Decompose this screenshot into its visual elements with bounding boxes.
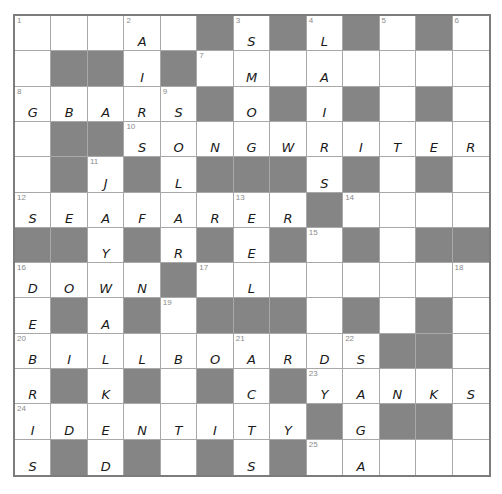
crossword-cell[interactable]	[88, 16, 124, 51]
crossword-cell[interactable]: I	[197, 404, 233, 439]
crossword-cell[interactable]: I	[307, 87, 343, 122]
crossword-cell[interactable]: W	[270, 122, 306, 157]
crossword-cell[interactable]: A	[88, 193, 124, 228]
crossword-cell[interactable]: R	[307, 122, 343, 157]
crossword-cell[interactable]	[453, 404, 489, 439]
crossword-cell[interactable]: 17	[197, 263, 233, 298]
crossword-cell[interactable]	[51, 16, 87, 51]
crossword-cell[interactable]: N	[380, 369, 416, 404]
crossword-cell[interactable]: A	[343, 369, 379, 404]
crossword-cell[interactable]	[453, 193, 489, 228]
crossword-cell[interactable]	[380, 157, 416, 192]
crossword-cell[interactable]: G	[234, 122, 270, 157]
crossword-cell[interactable]: 14	[343, 193, 379, 228]
crossword-cell[interactable]: Y	[88, 228, 124, 263]
crossword-cell[interactable]: E	[234, 228, 270, 263]
crossword-cell[interactable]	[161, 440, 197, 475]
crossword-cell[interactable]: T	[380, 122, 416, 157]
crossword-cell[interactable]	[453, 298, 489, 333]
crossword-cell[interactable]: D	[88, 440, 124, 475]
crossword-cell[interactable]: L	[124, 334, 160, 369]
crossword-cell[interactable]: E	[51, 193, 87, 228]
crossword-cell[interactable]: F	[124, 193, 160, 228]
crossword-cell[interactable]	[416, 440, 452, 475]
crossword-cell[interactable]: 22S	[343, 334, 379, 369]
crossword-cell[interactable]	[343, 51, 379, 86]
crossword-cell[interactable]: R	[270, 193, 306, 228]
crossword-cell[interactable]: E	[88, 404, 124, 439]
crossword-cell[interactable]: L	[88, 334, 124, 369]
crossword-cell[interactable]: B	[51, 87, 87, 122]
crossword-cell[interactable]: I	[343, 122, 379, 157]
crossword-cell[interactable]: S	[15, 440, 51, 475]
crossword-cell[interactable]	[380, 263, 416, 298]
crossword-cell[interactable]: R	[197, 193, 233, 228]
crossword-cell[interactable]: R	[161, 228, 197, 263]
crossword-cell[interactable]: O	[161, 122, 197, 157]
crossword-cell[interactable]: N	[197, 122, 233, 157]
crossword-cell[interactable]	[416, 51, 452, 86]
crossword-cell[interactable]	[380, 51, 416, 86]
crossword-cell[interactable]	[15, 51, 51, 86]
crossword-cell[interactable]: 19	[161, 298, 197, 333]
crossword-cell[interactable]: R	[124, 87, 160, 122]
crossword-cell[interactable]: O	[234, 87, 270, 122]
crossword-cell[interactable]: 18	[453, 263, 489, 298]
crossword-cell[interactable]: B	[161, 334, 197, 369]
crossword-cell[interactable]: 16D	[15, 263, 51, 298]
crossword-cell[interactable]	[380, 298, 416, 333]
crossword-cell[interactable]	[161, 16, 197, 51]
crossword-cell[interactable]: L	[161, 157, 197, 192]
crossword-cell[interactable]: 7	[197, 51, 233, 86]
crossword-cell[interactable]: A	[88, 87, 124, 122]
crossword-cell[interactable]: 5	[380, 16, 416, 51]
crossword-cell[interactable]	[270, 263, 306, 298]
crossword-cell[interactable]: S	[453, 369, 489, 404]
crossword-cell[interactable]: M	[234, 51, 270, 86]
crossword-cell[interactable]: 24I	[15, 404, 51, 439]
crossword-cell[interactable]: N	[124, 404, 160, 439]
crossword-cell[interactable]: N	[124, 263, 160, 298]
crossword-cell[interactable]	[270, 51, 306, 86]
crossword-cell[interactable]: O	[197, 334, 233, 369]
crossword-cell[interactable]	[380, 228, 416, 263]
crossword-cell[interactable]	[307, 263, 343, 298]
crossword-cell[interactable]: T	[234, 404, 270, 439]
crossword-cell[interactable]: 13E	[234, 193, 270, 228]
crossword-cell[interactable]: 25	[307, 440, 343, 475]
crossword-cell[interactable]: 12S	[15, 193, 51, 228]
crossword-cell[interactable]: K	[88, 369, 124, 404]
crossword-cell[interactable]: Y	[270, 404, 306, 439]
crossword-cell[interactable]: 9S	[161, 87, 197, 122]
crossword-cell[interactable]: C	[234, 369, 270, 404]
crossword-cell[interactable]: R	[270, 334, 306, 369]
crossword-cell[interactable]: 8G	[15, 87, 51, 122]
crossword-cell[interactable]: 3S	[234, 16, 270, 51]
crossword-cell[interactable]: 23Y	[307, 369, 343, 404]
crossword-cell[interactable]: 21A	[234, 334, 270, 369]
crossword-cell[interactable]: 4L	[307, 16, 343, 51]
crossword-cell[interactable]: I	[124, 51, 160, 86]
crossword-cell[interactable]: D	[51, 404, 87, 439]
crossword-cell[interactable]: R	[15, 369, 51, 404]
crossword-cell[interactable]	[380, 87, 416, 122]
crossword-cell[interactable]	[416, 263, 452, 298]
crossword-cell[interactable]: W	[88, 263, 124, 298]
crossword-cell[interactable]	[453, 87, 489, 122]
crossword-cell[interactable]: 15	[307, 228, 343, 263]
crossword-cell[interactable]: A	[88, 298, 124, 333]
crossword-cell[interactable]: L	[234, 263, 270, 298]
crossword-cell[interactable]: 11J	[88, 157, 124, 192]
crossword-cell[interactable]: R	[453, 122, 489, 157]
crossword-cell[interactable]	[380, 440, 416, 475]
crossword-cell[interactable]	[453, 440, 489, 475]
crossword-cell[interactable]	[307, 298, 343, 333]
crossword-cell[interactable]	[343, 263, 379, 298]
crossword-cell[interactable]: 20B	[15, 334, 51, 369]
crossword-cell[interactable]	[453, 157, 489, 192]
crossword-cell[interactable]: 1	[15, 16, 51, 51]
crossword-cell[interactable]: G	[343, 404, 379, 439]
crossword-cell[interactable]: O	[51, 263, 87, 298]
crossword-cell[interactable]: A	[307, 51, 343, 86]
crossword-cell[interactable]: S	[307, 157, 343, 192]
